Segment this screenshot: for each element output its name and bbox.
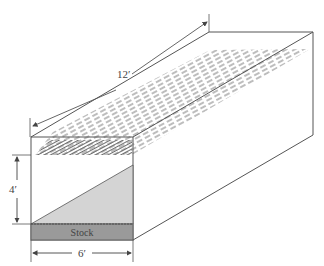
length-label: 12′ xyxy=(117,68,130,80)
stock-label: Stock xyxy=(71,227,94,238)
stack-top-surface xyxy=(35,49,310,155)
sloped-pile-wedge xyxy=(31,165,133,224)
stack-front-hatch xyxy=(35,140,132,155)
height-label: 4′ xyxy=(9,183,17,195)
kiln-diagram: Stock 12′ 4′ 6′ xyxy=(0,0,324,266)
width-label: 6′ xyxy=(78,247,86,259)
